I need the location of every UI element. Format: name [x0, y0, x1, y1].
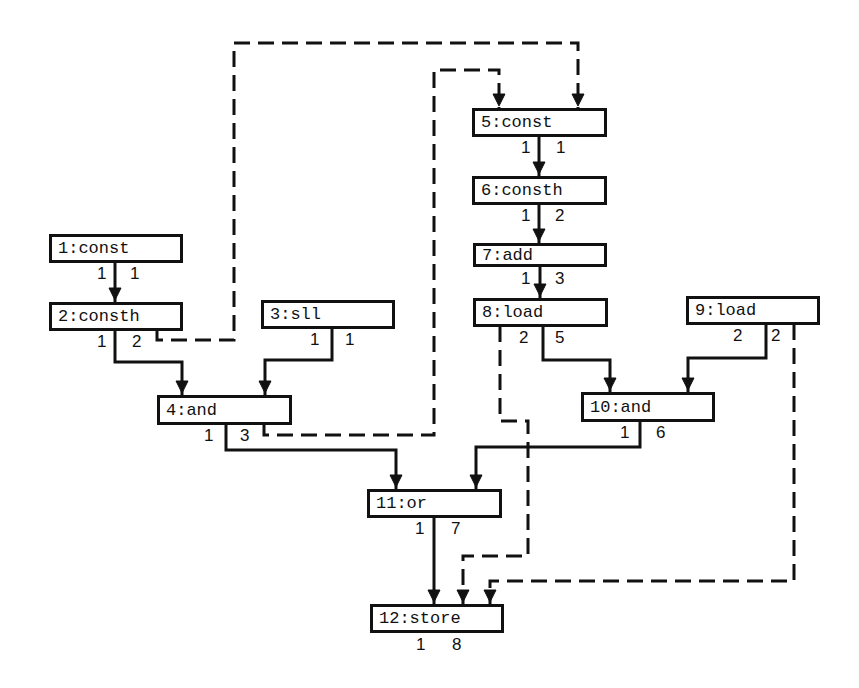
node-2-consth[interactable]: 2:consth: [49, 302, 183, 331]
edge-1-to-2-arrow: [109, 288, 121, 300]
node-8-port-left: 2: [519, 329, 528, 346]
node-5-const[interactable]: 5:const: [472, 108, 607, 137]
node-5-port-right: 1: [556, 139, 565, 156]
node-label: 10:and: [590, 399, 651, 416]
edge-8-to-12-dashed: [463, 326, 528, 604]
edges-layer: [0, 0, 859, 688]
edge-9-to-10: [688, 324, 766, 392]
node-5-port-left: 1: [521, 139, 530, 156]
node-2-port-left: 1: [97, 333, 106, 350]
node-7-add[interactable]: 7:add: [473, 243, 607, 267]
node-1-port-right: 1: [130, 265, 139, 282]
node-1-port-left: 1: [97, 265, 106, 282]
node-11-port-right: 7: [451, 520, 460, 537]
node-2-port-right: 2: [132, 333, 141, 350]
node-3-sll[interactable]: 3:sll: [261, 300, 395, 329]
node-11-or[interactable]: 11:or: [367, 489, 502, 518]
node-label: 4:and: [166, 402, 217, 419]
node-9-port-left: 2: [733, 327, 742, 344]
edge-8-to-10: [543, 326, 610, 392]
node-label: 2:consth: [58, 308, 140, 325]
node-label: 5:const: [481, 114, 552, 131]
node-7-port-right: 3: [555, 270, 564, 287]
node-6-port-left: 1: [521, 207, 530, 224]
node-9-port-right: 2: [771, 327, 780, 344]
node-7-port-left: 1: [521, 270, 530, 287]
edge-10-to-11: [476, 421, 640, 489]
node-8-port-right: 5: [555, 329, 564, 346]
node-label: 6:consth: [481, 182, 563, 199]
node-label: 12:store: [379, 610, 461, 627]
edge-4-to-5-dashed: [264, 70, 499, 435]
node-label: 8:load: [482, 304, 543, 321]
node-8-load[interactable]: 8:load: [473, 298, 608, 327]
node-label: 7:add: [482, 247, 533, 264]
node-label: 11:or: [376, 495, 427, 512]
node-12-port-right: 8: [452, 636, 461, 653]
dataflow-diagram: 1:const 2:consth 3:sll 4:and 5:const 6:c…: [0, 0, 859, 688]
node-9-load[interactable]: 9:load: [686, 296, 820, 325]
node-10-port-right: 6: [656, 424, 665, 441]
node-4-and[interactable]: 4:and: [157, 395, 292, 425]
node-10-and[interactable]: 10:and: [581, 392, 715, 422]
node-label: 9:load: [695, 302, 756, 319]
node-label: 1:const: [58, 240, 129, 257]
node-label: 3:sll: [270, 306, 321, 323]
node-4-port-left: 1: [204, 427, 213, 444]
node-4-port-right: 3: [240, 427, 249, 444]
node-6-consth[interactable]: 6:consth: [472, 176, 607, 205]
node-11-port-left: 1: [415, 520, 424, 537]
node-1-const[interactable]: 1:const: [49, 234, 183, 263]
node-10-port-left: 1: [620, 424, 629, 441]
node-6-port-right: 2: [555, 207, 564, 224]
node-3-port-right: 1: [345, 331, 354, 348]
edge-9-to-12-dashed: [490, 324, 794, 604]
node-12-store[interactable]: 12:store: [370, 604, 504, 633]
edge-3-to-4: [265, 328, 332, 395]
node-12-port-left: 1: [416, 636, 425, 653]
node-3-port-left: 1: [310, 331, 319, 348]
